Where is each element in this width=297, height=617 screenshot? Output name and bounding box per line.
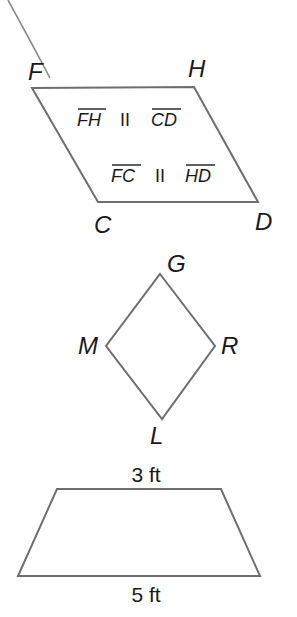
vertex-label-h: H — [188, 55, 206, 82]
trapezoid-shape — [18, 489, 260, 576]
geometry-figures: F H C D FH II CD FC II HD G R L M 3 ft — [0, 0, 297, 617]
vertex-label-l: L — [150, 422, 163, 449]
segment-fc: FC — [111, 166, 136, 186]
trapezoid: 3 ft 5 ft — [18, 463, 260, 606]
vertex-label-r: R — [221, 332, 238, 359]
vertex-label-f: F — [28, 58, 44, 85]
vertex-label-m: M — [78, 332, 98, 359]
rhombus-grlm: G R L M — [78, 250, 238, 449]
segment-hd: HD — [185, 166, 211, 186]
vertex-label-d: D — [255, 208, 272, 235]
parallel-symbol-1: II — [120, 110, 130, 130]
trapezoid-bottom-base-label: 5 ft — [131, 583, 160, 606]
vertex-label-g: G — [167, 250, 186, 277]
parallel-statement-fc-hd: FC II HD — [111, 165, 215, 186]
rhombus-shape — [106, 274, 215, 419]
trapezoid-top-base-label: 3 ft — [131, 463, 160, 486]
segment-cd: CD — [151, 110, 177, 130]
vertex-label-c: C — [94, 211, 112, 238]
parallelogram-shape — [32, 87, 258, 202]
parallel-statement-fh-cd: FH II CD — [77, 109, 181, 130]
parallel-symbol-2: II — [155, 166, 165, 186]
segment-fh: FH — [77, 110, 102, 130]
parallelogram-fhdc: F H C D FH II CD FC II HD — [28, 55, 272, 238]
